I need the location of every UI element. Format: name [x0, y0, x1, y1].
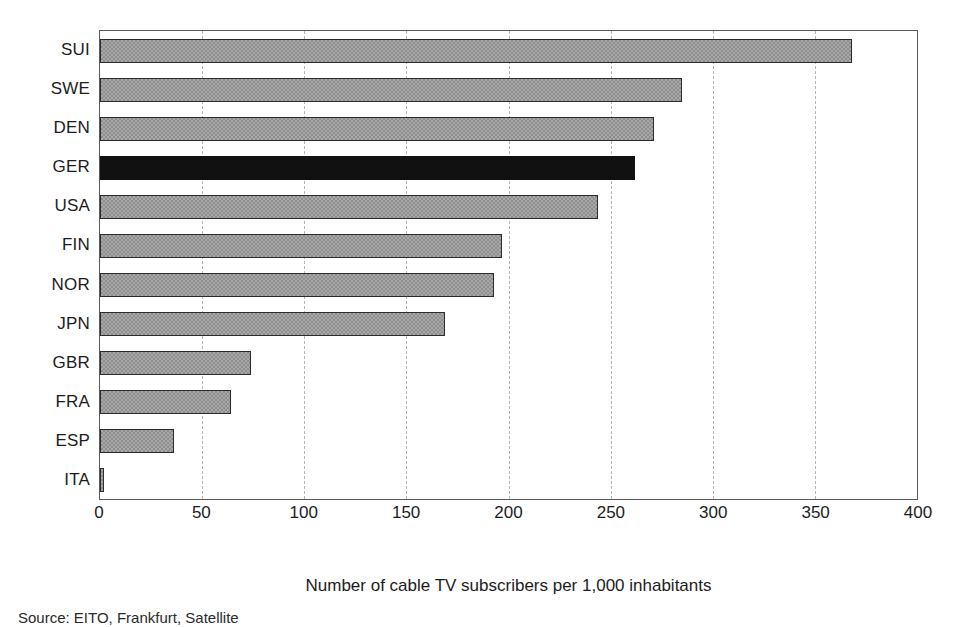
category-label-jpn: JPN: [20, 304, 92, 343]
value-tick-label-50: 50: [192, 503, 211, 523]
bar-jpn: [100, 312, 445, 336]
bar-row: [100, 109, 917, 148]
category-label-fra: FRA: [20, 383, 92, 422]
bar-row: [100, 31, 917, 70]
bar-fra: [100, 390, 231, 414]
category-axis: SUI SWE DEN GER USA FIN NOR JPN GBR FRA …: [20, 30, 92, 500]
value-tick-label-150: 150: [392, 503, 420, 523]
bar-row: [100, 265, 917, 304]
bar-row: [100, 343, 917, 382]
bar-swe: [100, 78, 682, 102]
bar-row: [100, 70, 917, 109]
category-label-swe: SWE: [20, 69, 92, 108]
category-label-nor: NOR: [20, 265, 92, 304]
value-axis: 050100150200250300350400: [99, 503, 918, 529]
bar-row: [100, 148, 917, 187]
value-tick-label-250: 250: [597, 503, 625, 523]
source-note: Source: EITO, Frankfurt, Satellite: [18, 609, 239, 627]
bar-esp: [100, 429, 174, 453]
bar-row: [100, 421, 917, 460]
bar-ger: [100, 156, 635, 180]
category-label-usa: USA: [20, 187, 92, 226]
value-tick-label-350: 350: [801, 503, 829, 523]
bar-row: [100, 460, 917, 499]
plot-area: [99, 30, 918, 500]
bar-row: [100, 382, 917, 421]
category-label-ita: ITA: [20, 461, 92, 500]
category-label-ger: GER: [20, 148, 92, 187]
bar-row: [100, 226, 917, 265]
bars-layer: [100, 31, 917, 499]
bar-sui: [100, 39, 852, 63]
value-tick-label-200: 200: [494, 503, 522, 523]
value-tick-label-100: 100: [290, 503, 318, 523]
bar-ita: [100, 468, 104, 492]
category-label-gbr: GBR: [20, 343, 92, 382]
value-tick-label-300: 300: [699, 503, 727, 523]
category-label-sui: SUI: [20, 30, 92, 69]
bar-usa: [100, 195, 598, 219]
bar-gbr: [100, 351, 251, 375]
value-tick-label-0: 0: [94, 503, 103, 523]
value-tick-label-400: 400: [904, 503, 932, 523]
category-label-esp: ESP: [20, 422, 92, 461]
bar-row: [100, 187, 917, 226]
category-label-den: DEN: [20, 108, 92, 147]
category-label-fin: FIN: [20, 226, 92, 265]
bar-row: [100, 304, 917, 343]
value-axis-title: Number of cable TV subscribers per 1,000…: [99, 576, 918, 596]
bar-fin: [100, 234, 502, 258]
bar-den: [100, 117, 654, 141]
bar-nor: [100, 273, 494, 297]
bar-chart-figure: SUI SWE DEN GER USA FIN NOR JPN GBR FRA …: [0, 0, 965, 627]
